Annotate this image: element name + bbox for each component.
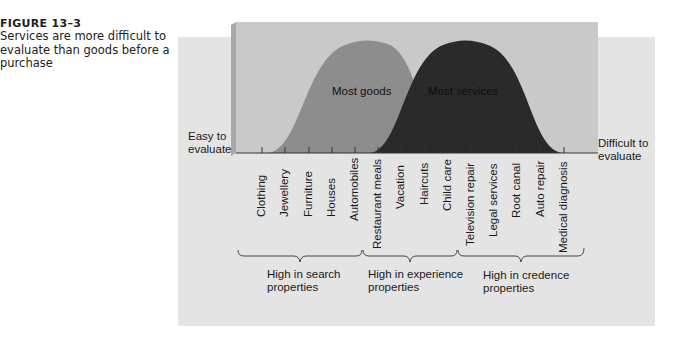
difficult-label-line2: evaluate: [598, 150, 648, 163]
item-label-automobiles: Automobiles: [348, 158, 360, 221]
item-label-root-canal: Root canal: [510, 163, 522, 218]
most-goods-label: Most goods: [332, 85, 391, 97]
group-credence-line2: properties: [483, 282, 569, 295]
group-experience-line2: properties: [368, 281, 463, 294]
group-label-experience: High in experience properties: [368, 268, 463, 294]
easy-label-line1: Easy to: [188, 130, 231, 143]
brace-experience: [363, 250, 457, 262]
group-experience-line1: High in experience: [368, 268, 463, 281]
item-label-vacation: Vacation: [394, 165, 406, 209]
group-search-line2: properties: [267, 281, 341, 294]
item-label-clothing: Clothing: [255, 175, 267, 217]
item-label-furniture: Furniture: [302, 171, 314, 217]
group-label-credence: High in credence properties: [483, 269, 569, 295]
item-label-legal-services: Legal services: [487, 163, 499, 237]
easy-label-line2: evaluate: [188, 143, 231, 156]
item-label-auto-repair: Auto repair: [534, 161, 546, 217]
item-label-jewellery: Jewellery: [278, 169, 290, 217]
item-label-television-repair: Television repair: [464, 163, 476, 246]
item-label-medical-diagnosis: Medical diagnosis: [557, 162, 569, 253]
item-label-houses: Houses: [325, 178, 337, 217]
item-label-restaurant-meals: Restaurant meals: [371, 159, 383, 249]
most-services-label: Most services: [428, 85, 498, 97]
box-left-edge: [231, 22, 236, 156]
difficult-to-evaluate-label: Difficult to evaluate: [598, 137, 648, 163]
difficult-label-line1: Difficult to: [598, 137, 648, 150]
group-credence-line1: High in credence: [483, 269, 569, 282]
easy-to-evaluate-label: Easy to evaluate: [188, 130, 231, 156]
brace-search: [238, 250, 362, 262]
group-search-line1: High in search: [267, 268, 341, 281]
item-label-child-care: Child care: [441, 159, 453, 211]
item-label-haircuts: Haircuts: [418, 163, 430, 205]
group-braces: [238, 248, 584, 262]
group-label-search: High in search properties: [267, 268, 341, 294]
